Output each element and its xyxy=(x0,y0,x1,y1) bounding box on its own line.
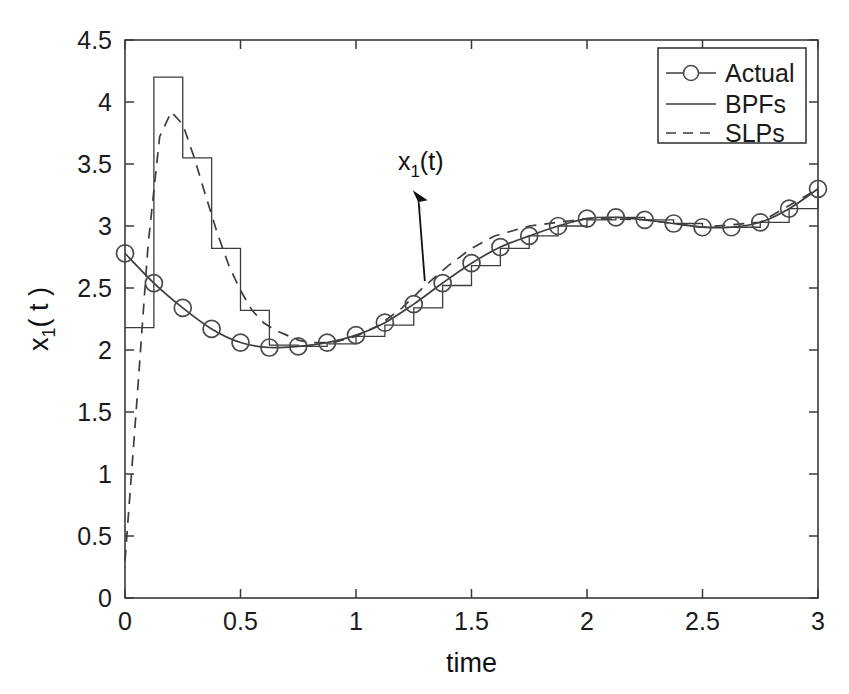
legend[interactable]: ActualBPFsSLPs xyxy=(658,48,806,147)
y-axis-title-text: x1( t ) xyxy=(24,287,59,351)
x-tick-label-0: 0 xyxy=(118,607,132,635)
y-tick-label-2: 1 xyxy=(98,460,112,488)
annotation-tail: (t) xyxy=(420,147,444,175)
series-slps xyxy=(125,112,818,561)
y-tick-label-1: 0.5 xyxy=(77,522,112,550)
chart-canvas: 00.511.522.5300.511.522.533.544.5timex1(… xyxy=(0,0,849,694)
y-tick-label-0: 0 xyxy=(98,584,112,612)
x-tick-label-1: 0.5 xyxy=(223,607,258,635)
x-tick-label-2: 1 xyxy=(349,607,363,635)
y-axis-title: x1( t ) xyxy=(24,287,59,351)
y-axis-title-tail: ( t ) xyxy=(24,287,54,328)
annotation-arrow-line xyxy=(419,202,425,281)
legend-label-slps[interactable]: SLPs xyxy=(725,119,785,147)
x-tick-label-6: 3 xyxy=(811,607,825,635)
x-tick-label-3: 1.5 xyxy=(454,607,489,635)
legend-label-bpfs[interactable]: BPFs xyxy=(725,90,786,118)
legend-label-actual[interactable]: Actual xyxy=(725,59,794,87)
legend-marker-actual xyxy=(684,66,699,81)
y-axis-title-sub: 1 xyxy=(39,327,59,337)
x-tick-label-4: 2 xyxy=(580,607,594,635)
y-tick-label-8: 4 xyxy=(98,88,112,116)
y-tick-label-4: 2 xyxy=(98,336,112,364)
annotation-group: x1(t) xyxy=(398,147,444,281)
y-tick-label-3: 1.5 xyxy=(77,398,112,426)
y-tick-label-6: 3 xyxy=(98,212,112,240)
data-series-group xyxy=(117,77,827,561)
figure-container: 00.511.522.5300.511.522.533.544.5timex1(… xyxy=(0,0,849,694)
x-tick-label-5: 2.5 xyxy=(685,607,720,635)
annotation-label: x1(t) xyxy=(398,147,444,181)
annotation-sub: 1 xyxy=(410,162,419,181)
y-tick-label-9: 4.5 xyxy=(77,26,112,54)
y-tick-label-7: 3.5 xyxy=(77,150,112,178)
y-tick-label-5: 2.5 xyxy=(77,274,112,302)
y-axis-title-base: x xyxy=(24,337,54,351)
x-axis-title: time xyxy=(446,648,497,678)
annotation-base: x xyxy=(398,147,411,175)
